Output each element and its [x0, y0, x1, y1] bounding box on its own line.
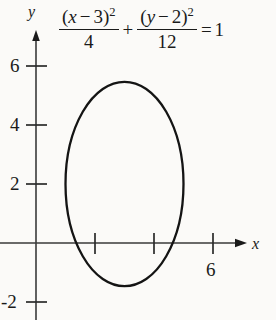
equation-left-fraction: (x−3)2 4 [59, 6, 119, 53]
x-axis-label: x [252, 236, 259, 252]
ellipse-curve [66, 82, 184, 286]
left-num-constant: 3 [93, 6, 103, 27]
right-num-minus-sign: − [155, 6, 172, 27]
y-tick-label-4: 4 [10, 115, 20, 134]
right-fraction-numerator: (y−2)2 [137, 6, 197, 29]
ellipse-equation: (x−3)2 4 + (y−2)2 12 = 1 [58, 6, 224, 53]
left-num-exponent: 2 [109, 5, 115, 19]
y-axis-arrowhead [32, 30, 40, 41]
left-fraction-denominator: 4 [81, 30, 97, 53]
y-tick-label-minus-2: -2 [1, 292, 17, 311]
y-tick-label-2: 2 [10, 174, 20, 193]
x-tick-label-6: 6 [206, 260, 216, 279]
x-axis-arrowhead [235, 239, 247, 247]
right-num-variable: y [147, 6, 155, 27]
equation-plus-sign: + [120, 20, 137, 39]
right-fraction-denominator: 12 [155, 30, 180, 53]
y-tick-label-6: 6 [10, 56, 20, 75]
equation-equals-sign: = [198, 20, 215, 39]
left-fraction-numerator: (x−3)2 [59, 6, 119, 29]
right-num-exponent: 2 [188, 5, 194, 19]
y-axis-label: y [28, 4, 35, 20]
left-num-variable: x [68, 6, 76, 27]
equation-right-fraction: (y−2)2 12 [137, 6, 197, 53]
left-num-minus-sign: − [77, 6, 94, 27]
right-num-constant: 2 [172, 6, 182, 27]
equation-right-hand-side: 1 [215, 20, 225, 39]
ellipse-graph-figure: y x 6 4 2 -2 6 (x−3)2 4 + (y−2)2 12 = 1 [0, 0, 276, 320]
